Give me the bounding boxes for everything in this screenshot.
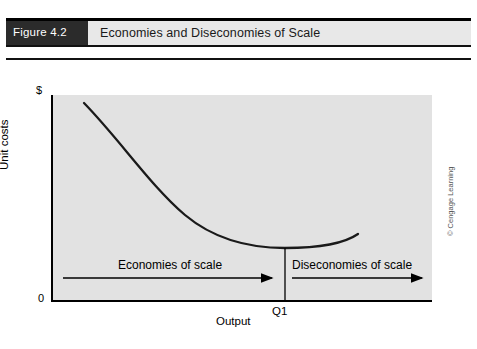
average-cost-curve <box>84 103 358 248</box>
figure-container: Figure 4.2 Economies and Diseconomies of… <box>0 0 477 349</box>
chart-vector-layer <box>0 0 477 349</box>
